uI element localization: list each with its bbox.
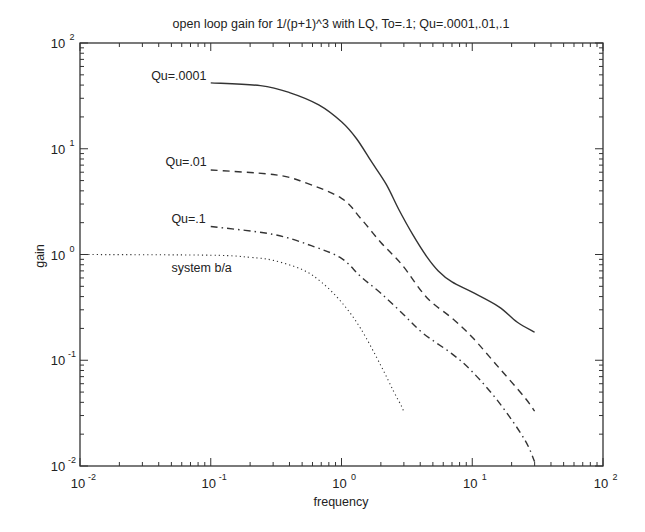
y-tick-label: 10	[51, 142, 65, 157]
series-line-4	[80, 255, 404, 414]
series-label: Qu=.01	[165, 155, 206, 169]
chart-title: open loop gain for 1/(p+1)^3 with LQ, To…	[173, 17, 510, 31]
y-axis-label: gain	[33, 244, 47, 268]
y-tick-label: 10	[51, 459, 65, 474]
chart-figure: open loop gain for 1/(p+1)^3 with LQ, To…	[0, 0, 645, 532]
y-tick-label-exponent: 0	[69, 244, 74, 254]
x-tick-label-exponent: 2	[612, 472, 617, 482]
series-line-2	[211, 170, 535, 411]
y-tick-label-exponent: -1	[68, 349, 76, 359]
x-tick-label: 10	[332, 476, 346, 491]
series-line-3	[211, 226, 535, 461]
x-tick-label: 10	[202, 476, 216, 491]
x-tick-label: 10	[594, 476, 608, 491]
x-tick-label-exponent: -2	[88, 472, 96, 482]
y-tick-label-exponent: 2	[69, 32, 74, 42]
x-tick-label: 10	[463, 476, 477, 491]
plot-area: 10-210-110010110210-210-1100101102Qu=.00…	[51, 32, 618, 491]
series-label: system b/a	[171, 261, 231, 275]
y-tick-label: 10	[51, 36, 65, 51]
x-tick-label-exponent: -1	[219, 472, 227, 482]
y-tick-label-exponent: 1	[69, 138, 74, 148]
x-tick-label-exponent: 0	[351, 472, 356, 482]
x-axis-label: frequency	[314, 495, 370, 509]
series-label: Qu=.1	[171, 212, 205, 226]
series-label: Qu=.0001	[151, 69, 206, 83]
x-tick-label: 10	[71, 476, 85, 491]
y-tick-label: 10	[51, 248, 65, 263]
x-tick-label-exponent: 1	[482, 472, 487, 482]
axes-frame	[80, 43, 603, 466]
y-tick-label-exponent: -2	[68, 455, 76, 465]
y-tick-label: 10	[51, 353, 65, 368]
series-line-1	[211, 83, 535, 332]
